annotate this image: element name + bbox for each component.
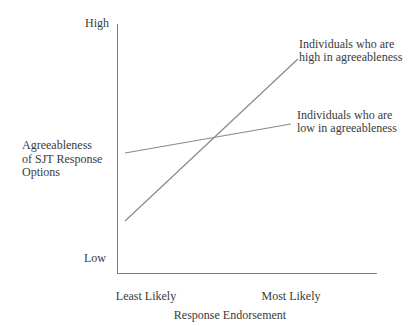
y-axis-tick-high: High	[85, 16, 109, 31]
high-agreeableness-line	[125, 59, 298, 221]
sjt-agreeableness-figure: High Low Agreeableness of SJT Response O…	[0, 0, 409, 326]
y-axis-title: Agreeableness of SJT Response Options	[22, 139, 102, 180]
x-axis-title: Response Endorsement	[174, 308, 286, 323]
annotation-high-agreeableness: Individuals who are high in agreeablenes…	[299, 38, 402, 64]
x-axis-tick-least-likely: Least Likely	[116, 289, 176, 304]
low-agreeableness-line	[125, 124, 291, 153]
x-axis-tick-most-likely: Most Likely	[262, 289, 321, 304]
annotation-low-agreeableness: Individuals who are low in agreeableness	[297, 109, 397, 135]
y-axis-tick-low: Low	[84, 251, 106, 266]
